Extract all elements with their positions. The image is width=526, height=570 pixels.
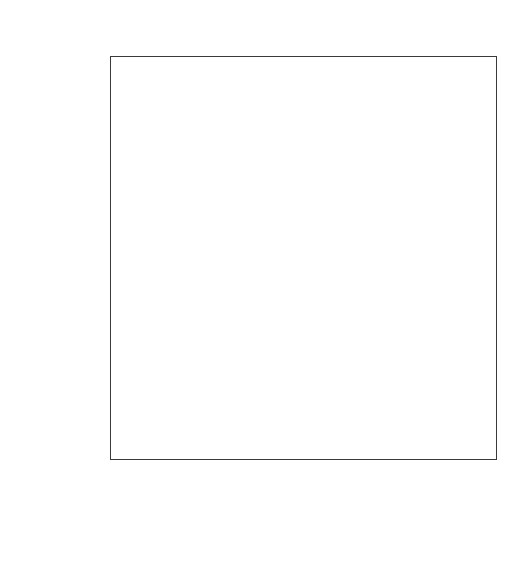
plot-area	[110, 56, 497, 460]
normal-probability-plot-figure	[0, 0, 526, 570]
